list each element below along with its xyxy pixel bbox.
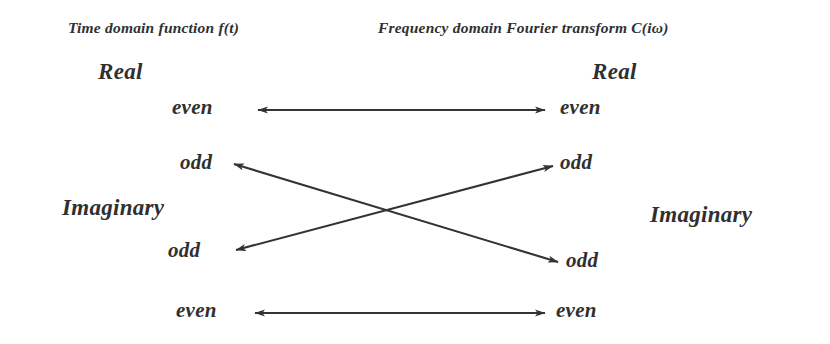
connector-arrow-layer [0,0,830,344]
arrow-real-odd-to-imaginary-odd [234,164,558,262]
fourier-symmetry-figure: Time domain function f(t) Frequency doma… [0,0,830,344]
